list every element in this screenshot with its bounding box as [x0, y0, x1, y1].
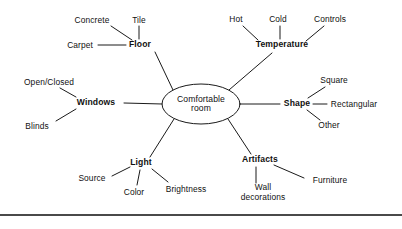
- diagram-edges-layer: [0, 0, 402, 229]
- leaf-node-wall-decorations-line2: decorations: [241, 192, 285, 202]
- edge-shape-square: [308, 87, 325, 98]
- leaf-node-open-closed: Open/Closed: [24, 78, 74, 87]
- edge-windows-blinds: [56, 109, 76, 121]
- leaf-node-source: Source: [78, 174, 105, 183]
- center-node-comfortable-room: Comfortable room: [177, 95, 225, 113]
- leaf-node-wall-decorations-line1: Wall: [241, 182, 285, 192]
- branch-node-artifacts: Artifacts: [242, 155, 278, 164]
- edge-center-windows: [124, 103, 162, 104]
- leaf-node-other: Other: [318, 121, 339, 130]
- edge-windows-openclosed: [60, 88, 76, 97]
- leaf-node-blinds: Blinds: [25, 122, 48, 131]
- leaf-node-hot: Hot: [229, 15, 242, 24]
- branch-node-temperature: Temperature: [256, 40, 309, 49]
- leaf-node-cold: Cold: [269, 15, 287, 24]
- leaf-node-tile: Tile: [132, 16, 146, 25]
- center-node-label-line2: room: [177, 104, 225, 113]
- leaf-node-color: Color: [124, 188, 145, 197]
- leaf-node-brightness: Brightness: [166, 185, 207, 194]
- edge-center-artifacts: [228, 119, 251, 154]
- edge-light-brightness: [152, 169, 168, 182]
- edge-floor-concrete: [111, 26, 132, 40]
- edge-light-source: [112, 167, 130, 176]
- edge-shape-other: [307, 110, 320, 120]
- edge-center-floor: [155, 52, 173, 90]
- bottom-horizontal-rule: [0, 214, 402, 216]
- leaf-node-wall-decorations: Wall decorations: [241, 182, 285, 203]
- leaf-node-rectangular: Rectangular: [331, 100, 377, 109]
- edge-temperature-hot: [243, 26, 258, 40]
- branch-node-shape: Shape: [284, 99, 310, 108]
- leaf-node-furniture: Furniture: [313, 176, 347, 185]
- edge-artifacts-furniture: [274, 165, 304, 178]
- leaf-node-concrete: Concrete: [75, 16, 110, 25]
- edge-center-temperature: [229, 53, 272, 90]
- branch-node-floor: Floor: [129, 40, 151, 49]
- mind-map-diagram: Comfortable room Floor Concrete Tile Car…: [0, 0, 402, 229]
- leaf-node-controls: Controls: [314, 15, 346, 24]
- branch-node-windows: Windows: [77, 98, 115, 107]
- edge-center-light: [150, 119, 174, 157]
- leaf-node-square: Square: [320, 76, 348, 85]
- leaf-node-carpet: Carpet: [67, 41, 93, 50]
- edge-light-color: [137, 170, 140, 185]
- branch-node-light: Light: [130, 158, 152, 167]
